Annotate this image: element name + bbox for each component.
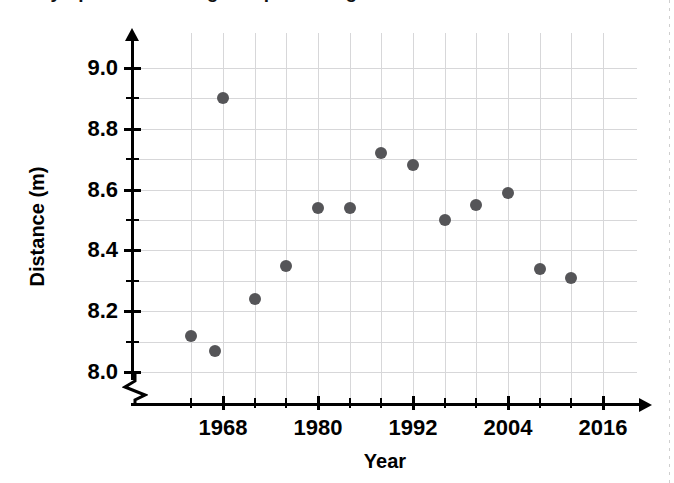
y-axis-arrow-icon [125, 28, 139, 41]
y-axis-tick-label: 8.4 [56, 237, 118, 263]
page-title: Olympic Men's Long Jump Winning Distance… [30, 0, 630, 7]
gridline-vertical [350, 33, 351, 404]
y-axis-tick-label: 8.0 [56, 359, 118, 385]
gridline-vertical [413, 33, 414, 404]
x-axis-tick-major [507, 396, 510, 410]
y-axis-tick-minor [126, 219, 139, 221]
x-axis-tick-minor [285, 398, 287, 408]
data-point [344, 202, 356, 214]
gridline-horizontal [133, 311, 637, 312]
gridline-horizontal [133, 98, 637, 99]
y-axis-tick-labels: 9.08.88.68.48.28.0 [56, 0, 118, 483]
y-axis-title: Distance (m) [26, 127, 49, 327]
x-axis-tick-major [317, 396, 320, 410]
gridline-vertical [191, 33, 192, 404]
y-axis-tick-major [124, 128, 141, 131]
y-axis-tick-minor [126, 280, 139, 282]
data-point [502, 187, 514, 199]
gridline-horizontal [133, 220, 637, 221]
gridline-horizontal [133, 281, 637, 282]
data-point [280, 260, 292, 272]
gridline-horizontal [133, 372, 637, 373]
gridline-horizontal [133, 159, 637, 160]
y-axis-tick-major [124, 189, 141, 192]
gridline-horizontal [133, 342, 637, 343]
data-point [209, 345, 221, 357]
data-point [312, 202, 324, 214]
data-point [565, 272, 577, 284]
y-axis-tick-minor [126, 341, 139, 343]
y-axis-tick-major [124, 310, 141, 313]
y-axis-tick-major [124, 371, 141, 374]
data-point [534, 263, 546, 275]
x-axis-tick-minor [349, 398, 351, 408]
x-axis-line [131, 403, 642, 406]
x-axis-title: Year [290, 450, 480, 473]
x-axis-tick-minor [539, 398, 541, 408]
y-axis-tick-label: 9.0 [56, 55, 118, 81]
y-axis-tick-label: 8.6 [56, 177, 118, 203]
gridline-vertical [318, 33, 319, 404]
x-axis-tick-major [412, 396, 415, 410]
x-axis-tick-label: 1968 [178, 415, 268, 441]
x-axis-tick-label: 1992 [368, 415, 458, 441]
gridline-vertical [223, 33, 224, 404]
gridline-vertical [540, 33, 541, 404]
data-point [217, 92, 229, 104]
x-axis-tick-label: 1980 [273, 415, 363, 441]
gridline-vertical [476, 33, 477, 404]
y-axis-tick-major [124, 67, 141, 70]
gridline-horizontal [133, 129, 637, 130]
page-edge-artifact [669, 0, 670, 483]
gridline-vertical [603, 33, 604, 404]
data-point [249, 293, 261, 305]
gridline-horizontal [133, 250, 637, 251]
x-axis-tick-minor [570, 398, 572, 408]
x-axis-tick-minor [380, 398, 382, 408]
gridline-horizontal [133, 190, 637, 191]
chart-page: Olympic Men's Long Jump Winning Distance… [0, 0, 674, 483]
y-axis-tick-label: 8.2 [56, 298, 118, 324]
data-point [407, 159, 419, 171]
x-axis-tick-label: 2016 [558, 415, 648, 441]
axis-break-icon [122, 372, 148, 406]
gridline-vertical [286, 33, 287, 404]
x-axis-tick-minor [475, 398, 477, 408]
y-axis-tick-minor [126, 158, 139, 160]
y-axis-tick-label: 8.8 [56, 116, 118, 142]
gridline-vertical [508, 33, 509, 404]
gridline-vertical [381, 33, 382, 404]
x-axis-tick-label: 2004 [463, 415, 553, 441]
y-axis-line [131, 38, 134, 380]
x-axis-arrow-icon [639, 398, 652, 412]
data-point [375, 147, 387, 159]
y-axis-tick-major [124, 249, 141, 252]
data-point [185, 330, 197, 342]
x-axis-tick-major [222, 396, 225, 410]
gridline-horizontal [133, 68, 637, 69]
x-axis-tick-minor [190, 398, 192, 408]
plot-area [133, 33, 645, 404]
x-axis-tick-minor [444, 398, 446, 408]
x-axis-tick-major [602, 396, 605, 410]
data-point [439, 214, 451, 226]
y-axis-tick-minor [126, 97, 139, 99]
gridline-vertical [571, 33, 572, 404]
x-axis-tick-minor [254, 398, 256, 408]
gridline-vertical [255, 33, 256, 404]
data-point [470, 199, 482, 211]
